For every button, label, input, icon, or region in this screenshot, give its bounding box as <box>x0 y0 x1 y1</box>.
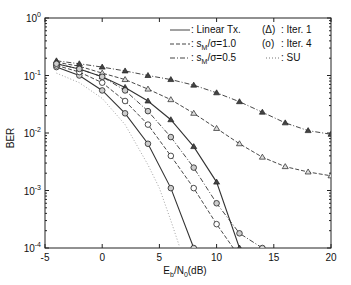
legend-label: : Iter. 1 <box>281 24 312 35</box>
series-line <box>56 62 331 176</box>
circle-marker <box>54 61 60 67</box>
x-axis-label: Eb/N0(dB) <box>163 265 206 278</box>
circle-marker <box>191 165 197 171</box>
x-tick-label: 20 <box>325 252 337 263</box>
circle-marker <box>191 185 197 191</box>
circle-marker <box>168 185 174 191</box>
series-line <box>56 64 262 248</box>
legend-label: : Iter. 4 <box>281 38 312 49</box>
circle-marker <box>145 122 151 128</box>
y-tick-label: 10-3 <box>24 184 41 197</box>
legend-label: : sM/σ=1.0 <box>191 38 237 51</box>
series-group <box>53 58 334 260</box>
legend-label: : SU <box>281 52 300 63</box>
legend-label: : sM/σ=0.5 <box>191 52 237 65</box>
triangle-marker <box>236 141 242 146</box>
legend-marker: (Δ) <box>262 24 275 35</box>
circle-marker <box>77 66 83 72</box>
ber-chart: -50510152010010-110-210-310-4 : Linear T… <box>0 0 351 285</box>
series-line <box>56 73 180 248</box>
circle-marker <box>99 88 105 94</box>
y-axis-label: BER <box>5 128 16 149</box>
circle-marker <box>145 141 151 147</box>
circle-marker <box>122 98 128 104</box>
circle-marker <box>260 245 266 251</box>
triangle-marker <box>259 154 265 159</box>
circle-marker <box>168 153 174 159</box>
x-tick-label: 10 <box>211 252 223 263</box>
triangle-marker <box>214 125 220 130</box>
series-line <box>56 65 239 257</box>
triangle-marker <box>328 173 334 178</box>
y-tick-label: 10-4 <box>24 241 41 254</box>
x-tick-label: 15 <box>268 252 280 263</box>
circle-marker <box>145 108 151 114</box>
y-tick-label: 10-1 <box>24 69 41 82</box>
series-s-m-1-0-iter-1 <box>53 59 334 178</box>
triangle-marker <box>282 164 288 169</box>
triangle-marker <box>168 97 174 102</box>
y-tick-label: 100 <box>26 11 41 24</box>
circle-marker <box>191 245 197 251</box>
legend: : Linear Tx.: sM/σ=1.0: sM/σ=0.5(Δ): Ite… <box>170 24 312 65</box>
x-tick-label: 0 <box>99 252 105 263</box>
series-s-m-0-5-iter-4 <box>54 61 266 251</box>
circle-marker <box>168 134 174 140</box>
y-tick-label: 10-2 <box>24 126 41 139</box>
circle-marker <box>122 88 128 94</box>
triangle-marker <box>282 120 288 125</box>
series-su <box>56 73 180 248</box>
circle-marker <box>122 111 128 117</box>
circle-marker <box>99 80 105 86</box>
triangle-marker <box>305 169 311 174</box>
x-tick-label: 5 <box>157 252 163 263</box>
circle-marker <box>99 74 105 80</box>
legend-marker: (o) <box>262 38 274 49</box>
circle-marker <box>214 221 220 227</box>
triangle-marker <box>145 98 151 103</box>
circle-marker <box>237 231 243 237</box>
x-tick-label: -5 <box>41 252 50 263</box>
circle-marker <box>237 254 243 260</box>
legend-label: : Linear Tx. <box>191 24 241 35</box>
series-s-m-0-5-iter-1 <box>53 58 334 136</box>
circle-marker <box>214 200 220 206</box>
triangle-marker <box>191 110 197 115</box>
triangle-marker <box>236 99 242 104</box>
